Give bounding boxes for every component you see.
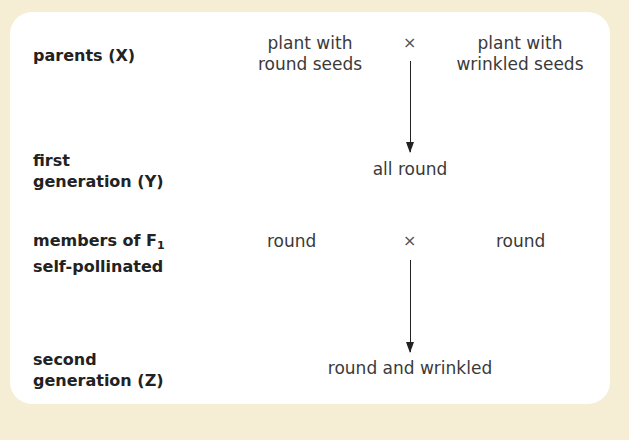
cross-symbol-2: × [403, 231, 416, 250]
f1-round-right: round [496, 231, 545, 252]
parent-round-line1: plant with [240, 33, 380, 54]
second-gen-line1: second [33, 349, 164, 370]
cross-symbol-1: × [403, 33, 416, 52]
parent-wrinkled-line1: plant with [450, 33, 590, 54]
parents-label-text: parents (X) [33, 46, 135, 65]
f1-subscript: 1 [157, 239, 165, 252]
result-all-round: all round [330, 159, 490, 180]
parent-wrinkled: plant with wrinkled seeds [450, 33, 590, 75]
f1-round-left: round [267, 231, 316, 252]
parent-round-line2: round seeds [240, 54, 380, 75]
parent-round: plant with round seeds [240, 33, 380, 75]
self-poll-line2: self-pollinated [33, 256, 165, 277]
first-gen-line2: generation (Y) [33, 171, 164, 192]
second-gen-line2: generation (Z) [33, 370, 164, 391]
arrow-down-icon [410, 61, 411, 152]
self-poll-line1: members of F1 [33, 230, 165, 256]
row-label-first-generation: first generation (Y) [33, 150, 164, 192]
arrow-down-icon [410, 260, 411, 352]
row-label-second-generation: second generation (Z) [33, 349, 164, 391]
parent-wrinkled-line2: wrinkled seeds [450, 54, 590, 75]
row-label-self-pollinated: members of F1 self-pollinated [33, 230, 165, 277]
first-gen-line1: first [33, 150, 164, 171]
result-round-and-wrinkled: round and wrinkled [300, 358, 520, 379]
f1-text: members of F [33, 231, 157, 250]
row-label-parents: parents (X) [33, 45, 135, 66]
